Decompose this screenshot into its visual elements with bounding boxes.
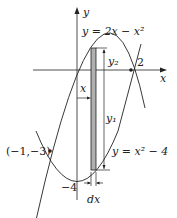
strip-y2-label: y₂: [107, 55, 119, 68]
strip-y1-label: y₁: [105, 112, 117, 125]
strip-width-label: dx: [87, 193, 101, 206]
y-axis-label: y: [82, 6, 90, 19]
x-dimension: [77, 97, 91, 100]
intersection-left-label: (−1,−3): [6, 145, 51, 158]
intersection-right-label: 2: [137, 56, 144, 69]
intersection-point-right: [129, 68, 133, 72]
x-axis-label: x: [160, 72, 167, 85]
strip-x-label: x: [80, 82, 87, 95]
y2-dimension: [96, 48, 107, 70]
y-axis-arrow-icon: [75, 7, 80, 14]
area-strip: [91, 48, 96, 170]
lower-curve: [36, 44, 141, 182]
area-between-curves-diagram: y x y = 2x − x² y = x² − 4 2 (−1,−3) −4 …: [0, 0, 177, 218]
lower-curve-label: y = x² − 4: [111, 145, 168, 158]
y-intercept-label: −4: [61, 181, 77, 194]
upper-curve-label: y = 2x − x²: [81, 25, 144, 38]
